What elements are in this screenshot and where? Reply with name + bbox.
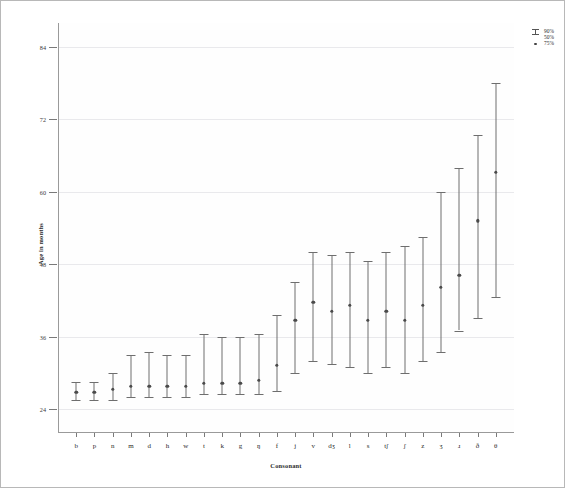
- x-axis-tick-label: h: [166, 443, 170, 450]
- whisker-cap-lower: [72, 400, 81, 401]
- x-axis-tick-label: s: [367, 443, 370, 450]
- x-axis-tick: [222, 433, 223, 437]
- x-axis-tick: [386, 433, 387, 437]
- x-axis-tick-label: w: [183, 443, 188, 450]
- whisker-cap-lower: [199, 394, 208, 395]
- whisker-cap-lower: [236, 394, 245, 395]
- whisker-cap-upper: [199, 334, 208, 335]
- x-axis-tick: [113, 433, 114, 437]
- x-axis-tick: [478, 433, 479, 437]
- x-axis-tick: [186, 433, 187, 437]
- whisker-line: [258, 334, 259, 394]
- x-axis-tick: [259, 433, 260, 437]
- x-axis-tick-label: t: [203, 443, 205, 450]
- gridline: [58, 47, 514, 48]
- chart-figure: 243648607284 bpnmdhwtkgŋfjvdʒlstʃʃzʒɹðθ …: [0, 0, 565, 488]
- whisker-cap-upper: [491, 83, 500, 84]
- x-axis-tick-label: ð: [476, 443, 480, 450]
- whisker-cap-lower: [418, 361, 427, 362]
- whisker-cap-upper: [145, 352, 154, 353]
- whisker-cap-upper: [291, 282, 300, 283]
- whisker-line: [185, 355, 186, 397]
- x-axis-tick-label: z: [421, 443, 424, 450]
- whisker-cap-lower: [364, 373, 373, 374]
- whisker-line: [349, 252, 350, 367]
- whisker-cap-lower: [327, 364, 336, 365]
- whisker-cap-lower: [473, 318, 482, 319]
- whisker-cap-lower: [163, 397, 172, 398]
- gridline: [58, 119, 514, 120]
- y-axis-tick: [49, 337, 57, 338]
- x-axis-tick: [167, 433, 168, 437]
- x-axis-tick-label: tʃ: [384, 443, 388, 450]
- whisker-line: [112, 373, 113, 400]
- x-axis-tick: [332, 433, 333, 437]
- x-axis-tick-label: l: [349, 443, 351, 450]
- whisker-cap-upper: [327, 255, 336, 256]
- whisker-cap-upper: [364, 261, 373, 262]
- whisker-cap-lower: [400, 373, 409, 374]
- x-axis-tick: [423, 433, 424, 437]
- x-axis-tick: [295, 433, 296, 437]
- whisker-cap-lower: [218, 394, 227, 395]
- plot-background: [58, 23, 514, 433]
- whisker-cap-upper: [90, 382, 99, 383]
- x-axis-tick: [496, 433, 497, 437]
- x-axis-tick-label: dʒ: [328, 443, 335, 450]
- whisker-cap-upper: [400, 246, 409, 247]
- x-axis-tick-label: d: [147, 443, 151, 450]
- whisker-cap-upper: [437, 192, 446, 193]
- x-axis-tick-label: θ: [494, 443, 497, 450]
- whisker-line: [459, 168, 460, 331]
- whisker-cap-upper: [473, 135, 482, 136]
- x-axis-tick-label: ʒ: [439, 443, 442, 450]
- whisker-line: [240, 337, 241, 394]
- whisker-line: [295, 282, 296, 372]
- whisker-line: [422, 237, 423, 361]
- x-axis-tick-label: j: [294, 443, 296, 450]
- y-axis-tick-label: 36: [40, 333, 46, 340]
- x-axis-tick: [405, 433, 406, 437]
- whisker-line: [222, 337, 223, 394]
- x-axis-tick: [204, 433, 205, 437]
- whisker-cap-lower: [181, 397, 190, 398]
- whisker-cap-lower: [491, 297, 500, 298]
- whisker-line: [313, 252, 314, 361]
- x-axis-tick-label: m: [128, 443, 133, 450]
- x-axis-tick-label: ŋ: [257, 443, 260, 450]
- whisker-line: [167, 355, 168, 397]
- x-axis-tick: [94, 433, 95, 437]
- x-axis-tick-label: f: [276, 443, 278, 450]
- x-axis-tick: [131, 433, 132, 437]
- whisker-cap-upper: [382, 252, 391, 253]
- whisker-cap-upper: [309, 252, 318, 253]
- y-axis-tick: [49, 409, 57, 410]
- x-axis-tick-label: ɹ: [458, 443, 460, 450]
- whisker-line: [276, 315, 277, 390]
- legend: 90%50%75%: [531, 29, 554, 47]
- legend-item: 75%: [531, 41, 554, 47]
- plot-area: 243648607284 bpnmdhwtkgŋfjvdʒlstʃʃzʒɹðθ: [58, 23, 514, 433]
- x-axis-tick: [277, 433, 278, 437]
- legend-label: 75%: [544, 41, 554, 46]
- gridline: [58, 337, 514, 338]
- x-axis-tick: [441, 433, 442, 437]
- whisker-cap-upper: [163, 355, 172, 356]
- x-axis-tick-label: g: [239, 443, 243, 450]
- whisker-cap-upper: [236, 337, 245, 338]
- x-axis-title: Consonant: [58, 462, 514, 469]
- whisker-cap-lower: [437, 352, 446, 353]
- whisker-cap-upper: [455, 168, 464, 169]
- x-axis-tick-label: ʃ: [403, 443, 405, 450]
- whisker-line: [404, 246, 405, 373]
- x-axis-tick: [240, 433, 241, 437]
- whisker-cap-upper: [126, 355, 135, 356]
- whisker-cap-upper: [418, 237, 427, 238]
- x-axis-tick-label: n: [111, 443, 115, 450]
- x-axis-tick-label: v: [312, 443, 316, 450]
- x-axis-tick: [350, 433, 351, 437]
- whisker-cap-lower: [345, 367, 354, 368]
- whisker-cap-lower: [272, 391, 281, 392]
- whisker-cap-upper: [218, 337, 227, 338]
- whisker-line: [477, 135, 478, 319]
